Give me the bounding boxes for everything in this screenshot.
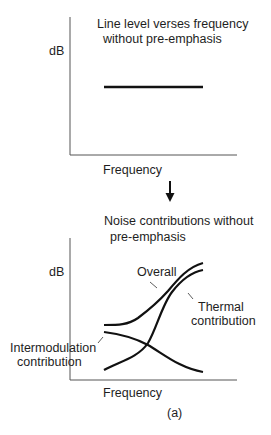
top-title-line2: without pre-emphasis (103, 32, 222, 46)
bottom-x-label: Frequency (103, 386, 162, 400)
intermod-label-line2: contribution (17, 355, 82, 369)
thermal-label-line1: Thermal (198, 300, 244, 314)
bottom-title-line2: pre-emphasis (110, 230, 186, 244)
thermal-label-line2: contribution (191, 314, 256, 328)
figure-caption: (a) (167, 406, 182, 420)
overall-pointer (150, 282, 157, 288)
bottom-y-label: dB (49, 265, 64, 279)
top-x-label: Frequency (103, 163, 162, 177)
bottom-title-line1: Noise contributions without (104, 214, 253, 228)
overall-label: Overall (137, 265, 177, 279)
intermod-pointer (98, 337, 103, 343)
top-title-line1: Line level verses frequency (97, 17, 248, 31)
top-y-label: dB (49, 44, 64, 58)
thermal-pointer (188, 293, 193, 299)
down-arrow-icon (166, 181, 175, 202)
intermodulation-curve (104, 332, 203, 372)
intermod-label-line1: Intermodulation (10, 341, 96, 355)
